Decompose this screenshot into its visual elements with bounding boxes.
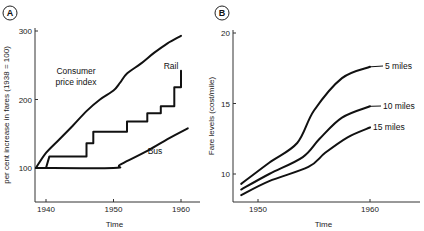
x-tick-label: 1960 — [172, 205, 190, 214]
y-tick-label: 20 — [221, 29, 230, 38]
y-tick-label: 10 — [221, 170, 230, 179]
series-line-5-miles — [241, 67, 370, 184]
panel-badge: B — [215, 6, 229, 20]
x-tick-label: 1940 — [37, 205, 55, 214]
y-tick-label: 15 — [221, 100, 230, 109]
series-label-consumer-price-index: price index — [55, 77, 97, 87]
y-axis-label: Fare levels (cost/mile) — [207, 77, 216, 156]
x-axis-label: Time — [315, 220, 333, 229]
chart-a: A100200300194019501960Timeper cent incre… — [2, 6, 200, 229]
y-tick-label: 300 — [19, 27, 33, 36]
x-tick-label: 1960 — [361, 205, 379, 214]
series-label-15-miles: 15 miles — [373, 122, 405, 132]
axes — [35, 28, 200, 202]
x-tick-label: 1950 — [249, 205, 267, 214]
x-tick-label: 1950 — [105, 205, 123, 214]
y-tick-label: 200 — [19, 96, 33, 105]
series-label-rail: Rail — [164, 61, 179, 71]
figure-canvas: A100200300194019501960Timeper cent incre… — [0, 0, 424, 231]
x-axis-label: Time — [106, 220, 124, 229]
svg-text:B: B — [219, 8, 226, 18]
series-line-15-miles — [241, 128, 370, 196]
y-axis-label: per cent increase in fares (1938 = 100) — [2, 46, 11, 184]
axes — [233, 30, 420, 202]
series-label-10-miles: 10 miles — [383, 101, 415, 111]
series-label-bus: Bus — [148, 146, 163, 156]
panel-badge: A — [3, 6, 17, 20]
series-label-5-miles: 5 miles — [385, 61, 412, 71]
series-label-consumer-price-index: Consumer — [56, 66, 95, 76]
series-line-bus — [36, 128, 188, 168]
chart-b: B10152019501960TimeFare levels (cost/mil… — [207, 6, 420, 229]
series-line-10-miles — [241, 106, 370, 189]
svg-text:A: A — [7, 8, 14, 18]
y-tick-label: 100 — [19, 164, 33, 173]
